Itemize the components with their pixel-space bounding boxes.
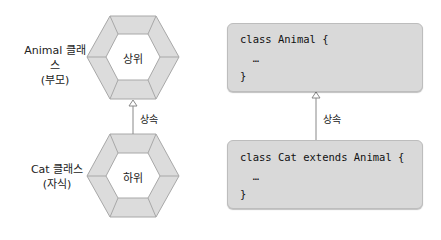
parent-role-label: (부모) <box>20 73 90 88</box>
parent-code-line-2: … <box>240 52 259 64</box>
parent-class-label-group: Animal 클래스 (부모) <box>20 43 90 88</box>
child-code-line-1: class Cat extends Animal { <box>240 151 404 163</box>
child-class-label: Cat 클래스 <box>22 162 92 177</box>
right-inheritance-arrow <box>312 92 320 140</box>
child-code-line-2: … <box>240 170 259 182</box>
child-role-label: (자식) <box>22 177 92 192</box>
parent-code-box: class Animal { … } <box>227 23 423 92</box>
left-relation-label: 상속 <box>140 111 158 126</box>
child-hex-text: 하위 <box>108 169 158 185</box>
parent-code-line-3: } <box>240 70 246 82</box>
child-class-label-group: Cat 클래스 (자식) <box>22 162 92 192</box>
right-relation-label: 상속 <box>323 111 341 126</box>
child-code-box: class Cat extends Animal { … } <box>227 140 423 209</box>
parent-code-line-1: class Animal { <box>240 33 329 45</box>
child-code-line-3: } <box>240 188 246 200</box>
parent-hex-text: 상위 <box>108 50 158 66</box>
left-inheritance-arrow <box>129 100 137 134</box>
parent-class-label: Animal 클래스 <box>20 43 90 73</box>
